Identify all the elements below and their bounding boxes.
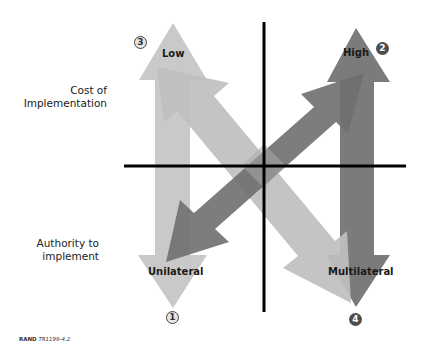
number-badge-4: 4 [349,313,362,326]
cost-label-line2: Implementation [0,97,107,110]
number-badge-1: 1 [166,311,179,324]
authority-label-line2: implement [0,250,99,263]
number-badge-2: 2 [376,42,389,55]
unilateral-label: Unilateral [148,266,204,277]
diagram-figure: Cost of Implementation Authority to impl… [0,0,423,354]
credit-id: TR1199-4.2 [38,336,70,342]
authority-to-implement-label: Authority to implement [0,237,99,263]
cost-of-implementation-label: Cost of Implementation [0,84,107,110]
number-badge-3: 3 [134,36,147,49]
high-label: High [343,47,369,58]
cost-label-line1: Cost of [0,84,107,97]
authority-label-line1: Authority to [0,237,99,250]
credit-org: RAND [19,336,37,342]
multilateral-label: Multilateral [328,266,394,277]
low-label: Low [162,48,184,59]
figure-credit: RAND TR1199-4.2 [19,336,70,342]
